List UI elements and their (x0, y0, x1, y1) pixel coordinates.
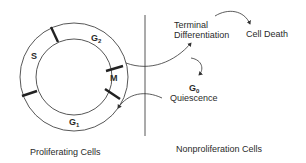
phase-g1-label: G1 (69, 117, 79, 128)
phase-g2-label: G2 (91, 33, 101, 44)
divider-m-g1 (105, 89, 120, 99)
cell-death-label: Cell Death (246, 29, 288, 39)
terminal-differentiation-label: Terminal Differentiation (174, 20, 229, 40)
arrow-to-g0 (191, 58, 202, 75)
proliferating-cells-label: Proliferating Cells (30, 147, 101, 157)
nonproliferation-cells-label: Nonproliferation Cells (176, 144, 262, 154)
quiescence-label: Quiescence (170, 93, 218, 103)
cycle-inner-ring (36, 39, 112, 115)
divider-s-g2 (51, 27, 58, 42)
cell-cycle-diagram (0, 0, 306, 163)
phase-s-label: S (31, 51, 37, 61)
arrow-to-terminal-differentiation (126, 43, 191, 66)
divider-g1-s (22, 91, 37, 96)
divider-g2-m (106, 66, 123, 71)
phase-m-label: M (110, 73, 118, 83)
